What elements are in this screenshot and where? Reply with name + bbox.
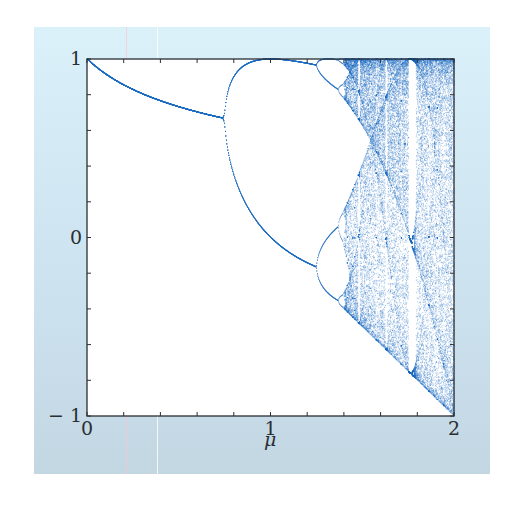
y-tick-label: 0 (70, 228, 82, 247)
x-axis-title: μ (264, 428, 276, 450)
plot-area (87, 59, 454, 416)
bifurcation-scatter (87, 59, 454, 416)
y-tick-label: − 1 (48, 406, 82, 425)
orbit-points (87, 59, 455, 416)
x-tick-label: 0 (81, 419, 93, 438)
y-tick-label: 1 (70, 49, 82, 68)
x-tick-label: 2 (448, 419, 460, 438)
